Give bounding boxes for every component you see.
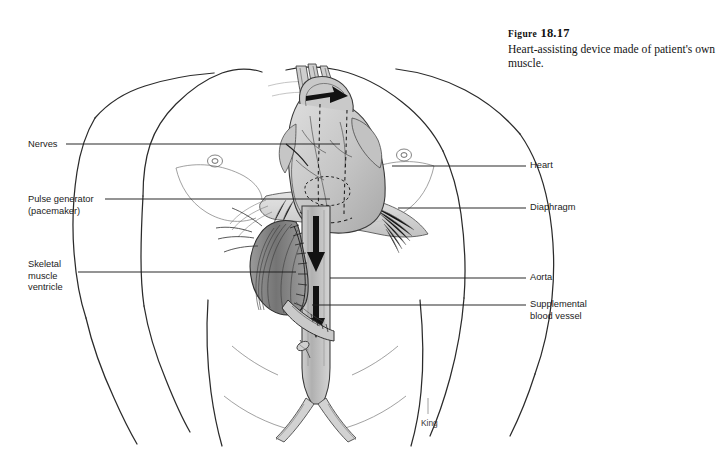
label-aorta: Aorta	[530, 272, 552, 284]
figure-caption-block: Figure 18.17 Heart-assisting device made…	[508, 26, 718, 71]
artist-signature: King	[421, 418, 438, 428]
nipple-left	[208, 155, 223, 167]
iliac-arteries	[276, 398, 356, 442]
nipple-right	[397, 149, 412, 161]
label-pulse-generator: Pulse generator (pacemaker)	[28, 194, 94, 217]
figure-page: Figure 18.17 Heart-assisting device made…	[0, 0, 721, 460]
label-diaphragm: Diaphragm	[530, 202, 575, 214]
figure-title: Figure 18.17	[508, 26, 718, 41]
figure-number: 18.17	[540, 26, 569, 40]
label-nerves: Nerves	[28, 139, 57, 151]
figure-label-prefix: Figure	[508, 29, 537, 39]
label-skeletal-muscle-ventricle: Skeletal muscle ventricle	[28, 259, 63, 294]
figure-caption-text: Heart-assisting device made of patient's…	[508, 43, 718, 71]
label-heart: Heart	[530, 160, 553, 172]
label-supplemental-blood-vessel: Supplemental blood vessel	[530, 299, 587, 322]
